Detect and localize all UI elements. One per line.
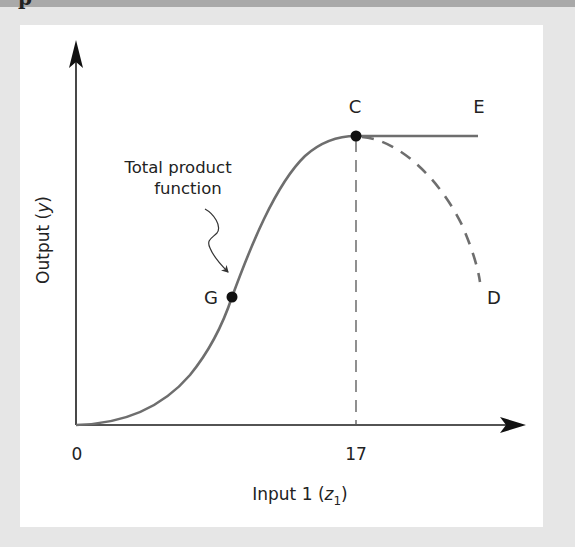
point-label-c: C bbox=[349, 96, 362, 117]
y-axis-label: Output (y) bbox=[33, 196, 53, 284]
annotation-line-1: Total product bbox=[123, 158, 232, 177]
point-label-e: E bbox=[473, 96, 484, 117]
x-tick-17: 17 bbox=[345, 444, 367, 464]
point-g-dot bbox=[227, 292, 238, 303]
point-c-dot bbox=[351, 131, 362, 142]
y-axis bbox=[69, 40, 83, 425]
dashed-curve-c-to-d bbox=[362, 137, 480, 282]
x-tick-0: 0 bbox=[72, 444, 83, 464]
x-axis bbox=[76, 417, 526, 433]
annotation-arrow-icon bbox=[205, 209, 228, 272]
point-label-g: G bbox=[204, 287, 218, 308]
annotation-line-2: function bbox=[154, 179, 221, 198]
x-axis-label: Input 1 (z1) bbox=[252, 484, 348, 508]
total-product-chart: C E G D Total product function 0 17 Inpu… bbox=[0, 0, 575, 547]
point-label-d: D bbox=[487, 287, 501, 308]
